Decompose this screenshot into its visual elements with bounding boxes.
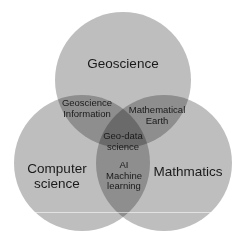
label-geoscience-text: Geoscience	[87, 56, 158, 71]
label-geo-data-science: Geo-data science	[103, 131, 143, 152]
label-ai-machine-learning: AI Machine learning	[106, 160, 142, 192]
label-geo-math-line2: Earth	[129, 116, 186, 127]
label-geoscience: Geoscience	[87, 56, 158, 71]
label-mathmatics-text: Mathmatics	[153, 164, 222, 179]
label-geo-cs-line2: Information	[62, 109, 112, 120]
divider-line	[14, 212, 232, 213]
label-computer-line1: Computer	[27, 161, 86, 176]
venn-diagram	[0, 0, 246, 246]
label-all-line2: science	[103, 142, 143, 153]
label-computer-line2: science	[27, 176, 86, 191]
label-cs-math-line3: learning	[106, 181, 142, 192]
label-mathmatics: Mathmatics	[153, 164, 222, 179]
label-geoscience-information: Geoscience Information	[62, 98, 112, 119]
label-computer-science: Computer science	[27, 161, 86, 191]
label-mathematical-earth: Mathematical Earth	[129, 105, 186, 126]
